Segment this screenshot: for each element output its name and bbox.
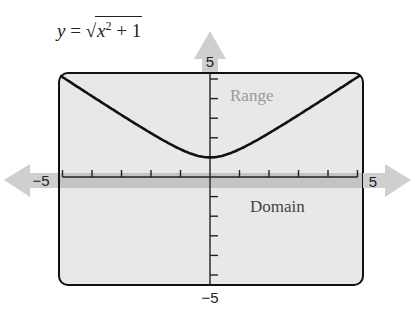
x-max-label: 5 xyxy=(369,173,377,190)
domain-band xyxy=(60,173,362,188)
x-min-label: −5 xyxy=(32,172,49,189)
y-min-label: −5 xyxy=(201,289,218,306)
y-max-label: 5 xyxy=(206,53,214,70)
graph-canvas: 5 −5 −5 5 Range Domain xyxy=(0,0,415,325)
x-axis-left-arrow xyxy=(4,164,58,197)
range-label: Range xyxy=(230,86,273,105)
domain-label: Domain xyxy=(250,197,305,216)
domain-band-extension xyxy=(363,173,368,188)
